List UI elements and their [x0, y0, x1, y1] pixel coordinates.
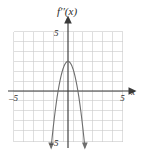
x-tick-label-negative-5: –5 [8, 93, 19, 103]
coordinate-plane-svg: f′′(x) x 5 –5 –5 5 [0, 0, 143, 160]
figure-background [0, 0, 143, 160]
function-label: f′′(x) [57, 5, 77, 18]
graph-figure: f′′(x) x 5 –5 –5 5 [0, 0, 143, 160]
y-tick-label-negative-5: –5 [49, 138, 60, 148]
x-tick-label-positive-5: 5 [120, 93, 125, 103]
y-tick-label-positive-5: 5 [54, 28, 59, 38]
x-axis-label: x [130, 87, 135, 97]
